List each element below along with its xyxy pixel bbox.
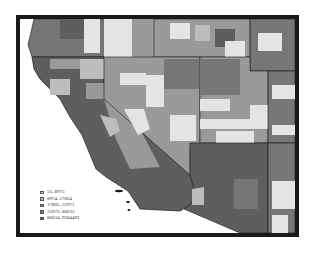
county <box>84 19 100 53</box>
legend-swatch <box>40 191 44 195</box>
county <box>272 125 295 135</box>
county <box>272 85 295 99</box>
legend-label: 80634–9284493 <box>47 215 80 222</box>
county <box>250 105 268 119</box>
legend-label: 33972–80633 <box>47 209 75 216</box>
county <box>60 19 84 39</box>
county <box>132 19 154 57</box>
county <box>195 25 210 41</box>
legend-swatch <box>40 204 44 208</box>
legend-label: 55–8973 <box>47 189 65 196</box>
county <box>50 59 80 69</box>
county <box>234 179 258 209</box>
county <box>50 79 70 95</box>
county <box>170 23 190 39</box>
map-legend: 55–8973 8974–17804 17805–33971 33972–806… <box>40 189 80 222</box>
county <box>216 131 254 143</box>
county <box>164 59 200 89</box>
county <box>225 41 245 57</box>
legend-item: 17805–33971 <box>40 202 80 209</box>
county <box>120 73 146 85</box>
county <box>200 59 240 95</box>
legend-swatch <box>40 210 44 214</box>
legend-item: 8974–17804 <box>40 196 80 203</box>
county <box>200 99 230 111</box>
county <box>258 33 282 51</box>
legend-label: 17805–33971 <box>47 202 75 209</box>
county <box>146 75 164 107</box>
channel-island <box>115 190 123 192</box>
legend-swatch <box>40 197 44 201</box>
legend-item: 55–8973 <box>40 189 80 196</box>
county <box>272 181 295 209</box>
legend-item: 80634–9284493 <box>40 215 80 222</box>
channel-island <box>128 209 131 211</box>
county <box>170 115 196 141</box>
county <box>200 119 268 129</box>
county <box>192 187 204 205</box>
channel-island <box>126 201 130 203</box>
county <box>272 215 288 233</box>
county <box>86 83 104 99</box>
legend-swatch <box>40 217 44 221</box>
county <box>80 59 104 79</box>
legend-item: 33972–80633 <box>40 209 80 216</box>
county <box>104 19 132 57</box>
legend-label: 8974–17804 <box>47 196 72 203</box>
